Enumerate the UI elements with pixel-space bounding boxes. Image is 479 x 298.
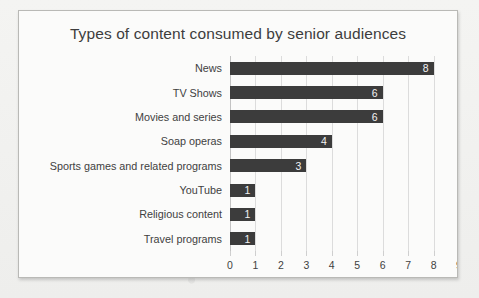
bar-row[interactable]: Movies and series6 [230, 110, 458, 123]
x-axis-tick-label: 0 [227, 259, 233, 271]
x-axis-tick [434, 251, 435, 256]
x-axis-tick-label: 3 [303, 259, 309, 271]
bar-row[interactable]: Travel programs1 [230, 232, 458, 245]
x-axis-tick [255, 251, 256, 256]
x-axis-tick-label: 4 [329, 259, 335, 271]
bar-value-label: 1 [245, 234, 251, 245]
chart-card: Types of content consumed by senior audi… [18, 10, 458, 278]
x-axis-tick-label: 5 [354, 259, 360, 271]
x-axis-tick-label: 7 [405, 259, 411, 271]
category-label: Movies and series [135, 111, 222, 123]
x-axis-tick-label: 8 [431, 259, 437, 271]
bar-row[interactable]: Sports games and related programs3 [230, 159, 458, 172]
bar[interactable]: 1 [230, 184, 255, 197]
chart-title: Types of content consumed by senior audi… [19, 25, 457, 43]
category-label: YouTube [180, 184, 222, 196]
bar[interactable]: 8 [230, 62, 434, 75]
x-axis-tick-label: 2 [278, 259, 284, 271]
x-axis-tick-label: 6 [380, 259, 386, 271]
bar[interactable]: 6 [230, 86, 383, 99]
x-axis-tick-label: 1 [253, 259, 259, 271]
x-axis-tick [281, 251, 282, 256]
x-axis-tick [357, 251, 358, 256]
bar-row[interactable]: Soap operas4 [230, 135, 458, 148]
x-axis-tick [332, 251, 333, 256]
x-axis-tick [306, 251, 307, 256]
bar-value-label: 1 [245, 185, 251, 196]
bar-row[interactable]: News8 [230, 62, 458, 75]
bar[interactable]: 1 [230, 232, 255, 245]
bar-row[interactable]: YouTube1 [230, 184, 458, 197]
bar[interactable]: 3 [230, 159, 306, 172]
x-axis-tick [383, 251, 384, 256]
bar[interactable]: 6 [230, 110, 383, 123]
x-axis-tick [230, 251, 231, 256]
category-label: Soap operas [161, 135, 222, 147]
bar-value-label: 1 [245, 209, 251, 220]
bar-row[interactable]: TV Shows6 [230, 86, 458, 99]
category-label: Travel programs [144, 233, 222, 245]
bar-value-label: 6 [372, 87, 378, 98]
bar[interactable]: 1 [230, 208, 255, 221]
bar-value-label: 3 [295, 160, 301, 171]
category-label: Religious content [139, 208, 222, 220]
x-axis-tick-labels: 0123456789 [230, 259, 458, 275]
bar[interactable]: 4 [230, 135, 332, 148]
x-axis-tick [408, 251, 409, 256]
bar-value-label: 6 [372, 112, 378, 123]
bar-value-label: 8 [423, 63, 429, 74]
category-label: TV Shows [173, 87, 222, 99]
bar-value-label: 4 [321, 136, 327, 147]
category-label: Sports games and related programs [50, 160, 222, 172]
x-axis-tick-label: 9 [456, 259, 458, 271]
bar-series: News8TV Shows6Movies and series6Soap ope… [230, 56, 458, 251]
category-label: News [195, 62, 222, 74]
plot-area: News8TV Shows6Movies and series6Soap ope… [230, 56, 458, 251]
bar-row[interactable]: Religious content1 [230, 208, 458, 221]
